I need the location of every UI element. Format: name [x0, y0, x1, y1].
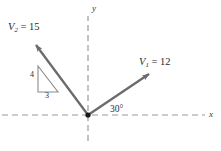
origin-dot [85, 112, 90, 117]
vector-v2-subscript: 2 [14, 26, 18, 34]
vector-v2-label: V2 = 15 [8, 22, 40, 34]
y-axis-label: y [92, 4, 96, 13]
vector-v1-label: V1 = 12 [139, 57, 171, 69]
vector-v2-arrow [36, 45, 88, 115]
vector-v1-subscript: 1 [145, 61, 149, 69]
x-axis-label: x [209, 110, 213, 119]
slope-triangle-horizontal-label: 3 [45, 92, 49, 100]
angle-label: 30° [110, 105, 123, 115]
vector-diagram: y x V2 = 15 V1 = 12 30° 4 3 [0, 0, 221, 151]
slope-triangle-vertical-label: 4 [30, 71, 34, 79]
vector-v1-value: = 12 [152, 56, 171, 67]
vector-v2-value: = 15 [21, 21, 40, 32]
